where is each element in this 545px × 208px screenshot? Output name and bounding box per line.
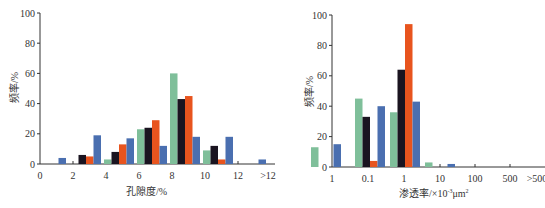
bar-blue — [413, 102, 421, 167]
x-tick-label: 12 — [233, 170, 243, 181]
bar-orange — [370, 161, 378, 167]
bar-blue — [334, 144, 342, 167]
bar-orange — [405, 24, 413, 167]
x-tick-label: 1 — [402, 173, 407, 184]
y-tick-label: 0 — [322, 162, 327, 173]
porosity-chart: 020406080100024681012>12 频率/% 孔隙度/% — [0, 0, 275, 208]
bar-green — [355, 99, 363, 167]
bar-blue — [259, 159, 267, 164]
x-tick-label: 10 — [435, 173, 445, 184]
x-tick-label: 0 — [38, 170, 43, 181]
bar-blue — [160, 146, 168, 164]
permeability-y-axis-title: 频率/% — [301, 76, 316, 107]
y-tick-label: 20 — [317, 131, 327, 142]
bar-black — [145, 128, 153, 164]
bar-black — [211, 146, 219, 164]
porosity-chart-plot: 020406080100024681012>12 — [0, 0, 275, 208]
bar-black — [178, 99, 186, 164]
permeability-x-axis-title: 渗透率/×10-3μm2 — [399, 185, 469, 200]
bar-green — [137, 129, 145, 164]
y-tick-label: 40 — [25, 98, 35, 109]
x-tick-label: 2 — [71, 170, 76, 181]
bar-black — [398, 70, 406, 167]
bar-blue — [226, 137, 234, 164]
y-tick-label: 80 — [25, 38, 35, 49]
porosity-x-axis-title: 孔隙度/% — [126, 183, 167, 198]
y-tick-label: 40 — [317, 101, 327, 112]
x-tick-label: 100 — [468, 173, 483, 184]
y-tick-label: 60 — [317, 70, 327, 81]
x-tick-label: 4 — [104, 170, 109, 181]
x-tick-label: 10 — [200, 170, 210, 181]
x-tick-label: 8 — [170, 170, 175, 181]
y-tick-label: 100 — [20, 8, 35, 19]
x-tick-label: 1 — [330, 173, 335, 184]
x-tick-label: 6 — [137, 170, 142, 181]
bar-green — [104, 159, 112, 164]
bar-orange — [119, 144, 127, 164]
bar-black — [363, 117, 371, 167]
bar-blue — [94, 135, 102, 164]
bar-orange — [185, 96, 193, 164]
bar-green — [390, 112, 398, 167]
x-tick-label: 0.1 — [362, 173, 375, 184]
y-tick-label: 80 — [317, 40, 327, 51]
bar-blue — [127, 138, 135, 164]
x-tick-label: 500 — [503, 173, 518, 184]
bar-green — [170, 73, 178, 164]
x-tick-label: >12 — [260, 170, 276, 181]
bar-green — [203, 150, 211, 164]
bar-orange — [218, 159, 226, 164]
bar-blue — [448, 164, 456, 167]
bar-orange — [86, 156, 94, 164]
porosity-y-axis-title: 频率/% — [6, 72, 21, 103]
bar-green — [425, 162, 433, 167]
x-tick-label: >500 — [527, 173, 545, 184]
bar-orange — [152, 120, 160, 164]
bar-black — [112, 152, 120, 164]
y-tick-label: 100 — [312, 10, 327, 21]
permeability-chart: 02040608010010.1110100500>500 频率/% 渗透率/×… — [275, 0, 545, 208]
y-tick-label: 0 — [30, 159, 35, 170]
y-tick-label: 20 — [25, 128, 35, 139]
bar-blue — [193, 137, 201, 164]
bar-green — [311, 147, 319, 167]
bar-blue — [378, 106, 386, 167]
bar-black — [79, 155, 87, 164]
y-tick-label: 60 — [25, 68, 35, 79]
bar-blue — [59, 158, 67, 164]
